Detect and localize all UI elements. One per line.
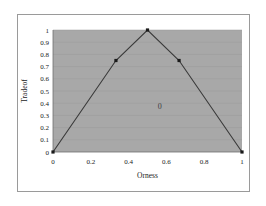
y-tick-label: 0	[46, 149, 50, 157]
plot-annotation-text: 0	[158, 102, 162, 111]
y-tick-label: 1	[46, 27, 50, 35]
data-point-marker	[177, 59, 180, 62]
x-tick-label: 0.8	[200, 158, 209, 166]
x-tick-label: 0.6	[162, 158, 171, 166]
x-axis-title: Orness	[137, 171, 158, 180]
y-tick-label: 0.9	[40, 39, 49, 47]
y-tick-label: 0.4	[40, 100, 49, 108]
y-tick-label: 0.8	[40, 51, 49, 59]
x-axis-tick-labels: 00.20.40.60.81	[51, 158, 244, 166]
y-tick-label: 0.2	[40, 124, 49, 132]
y-tick-label: 0.5	[40, 88, 49, 96]
x-tick-label: 0	[51, 158, 55, 166]
data-point-marker	[51, 150, 54, 153]
y-tick-label: 0.6	[40, 75, 49, 83]
data-point-marker	[114, 59, 117, 62]
y-tick-label: 0.1	[40, 136, 49, 144]
plot-annotations: 0	[158, 102, 162, 111]
x-tick-label: 0.4	[124, 158, 133, 166]
chart-plot: 00.10.20.30.40.50.60.70.80.91 00.20.40.6…	[0, 0, 266, 206]
y-tick-label: 0.7	[40, 63, 49, 71]
x-tick-label: 0.2	[86, 158, 95, 166]
data-point-marker	[240, 150, 243, 153]
data-point-marker	[146, 28, 149, 31]
y-axis-tick-labels: 00.10.20.30.40.50.60.70.80.91	[40, 27, 49, 157]
y-axis-title: Tradeof	[20, 79, 29, 103]
x-tick-label: 1	[240, 158, 244, 166]
y-tick-label: 0.3	[40, 112, 49, 120]
